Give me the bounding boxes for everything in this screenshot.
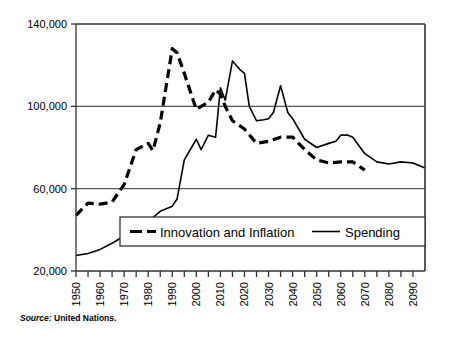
legend-label-innovation-and-inflation: Innovation and Inflation <box>160 225 294 240</box>
chart-legend: Innovation and InflationSpending <box>120 217 425 246</box>
x-axis-label: 2040 <box>287 282 299 306</box>
x-axis-label: 2060 <box>335 282 347 306</box>
x-axis-label: 2000 <box>190 282 202 306</box>
x-axis-label: 1970 <box>118 282 130 306</box>
x-axis-label: 2080 <box>383 282 395 306</box>
y-axis-label: 60,000 <box>33 183 67 195</box>
x-axis-label: 1950 <box>70 282 82 306</box>
y-axis-label: 100,000 <box>27 100 67 112</box>
x-axis-label: 1980 <box>142 282 154 306</box>
source-label: Source: <box>20 313 52 323</box>
x-axis-label: 2050 <box>311 282 323 306</box>
source-value: United Nations. <box>54 313 116 323</box>
source-note: Source: United Nations. <box>20 313 116 323</box>
line-chart: 20,00060,000100,000140,000 1950196019701… <box>0 0 449 338</box>
x-axis-label: 1960 <box>94 282 106 306</box>
x-axis-label: 2020 <box>238 282 250 306</box>
chart-figure: 20,00060,000100,000140,000 1950196019701… <box>0 0 449 338</box>
x-axis-label: 2010 <box>214 282 226 306</box>
x-axis-label: 1990 <box>166 282 178 306</box>
y-axis-label: 20,000 <box>33 265 67 277</box>
x-axis-label: 2070 <box>359 282 371 306</box>
legend-label-spending: Spending <box>345 225 400 240</box>
y-axis-label: 140,000 <box>27 18 67 30</box>
x-axis-label: 2090 <box>407 282 419 306</box>
x-axis-label: 2030 <box>263 282 275 306</box>
